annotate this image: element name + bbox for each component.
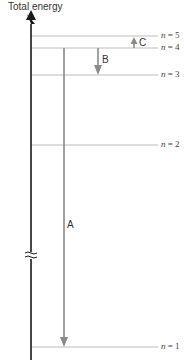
transition-label-c: C [139, 37, 146, 48]
transition-label-a: A [67, 219, 74, 230]
level-label-n4: n = 4 [161, 42, 180, 52]
transition-arrow-a [60, 48, 68, 347]
transition-arrow-c [131, 37, 138, 48]
level-label-n2: n = 2 [161, 139, 180, 149]
energy-level-diagram [0, 0, 184, 363]
level-label-n5: n = 5 [161, 30, 180, 40]
level-label-n3: n = 3 [161, 69, 180, 79]
transition-label-b: B [102, 54, 109, 65]
energy-levels [31, 36, 158, 347]
energy-axis [26, 10, 36, 360]
axis-break-icon [25, 252, 37, 258]
level-label-n1: n = 1 [161, 341, 180, 351]
transition-arrow-b [94, 48, 102, 75]
